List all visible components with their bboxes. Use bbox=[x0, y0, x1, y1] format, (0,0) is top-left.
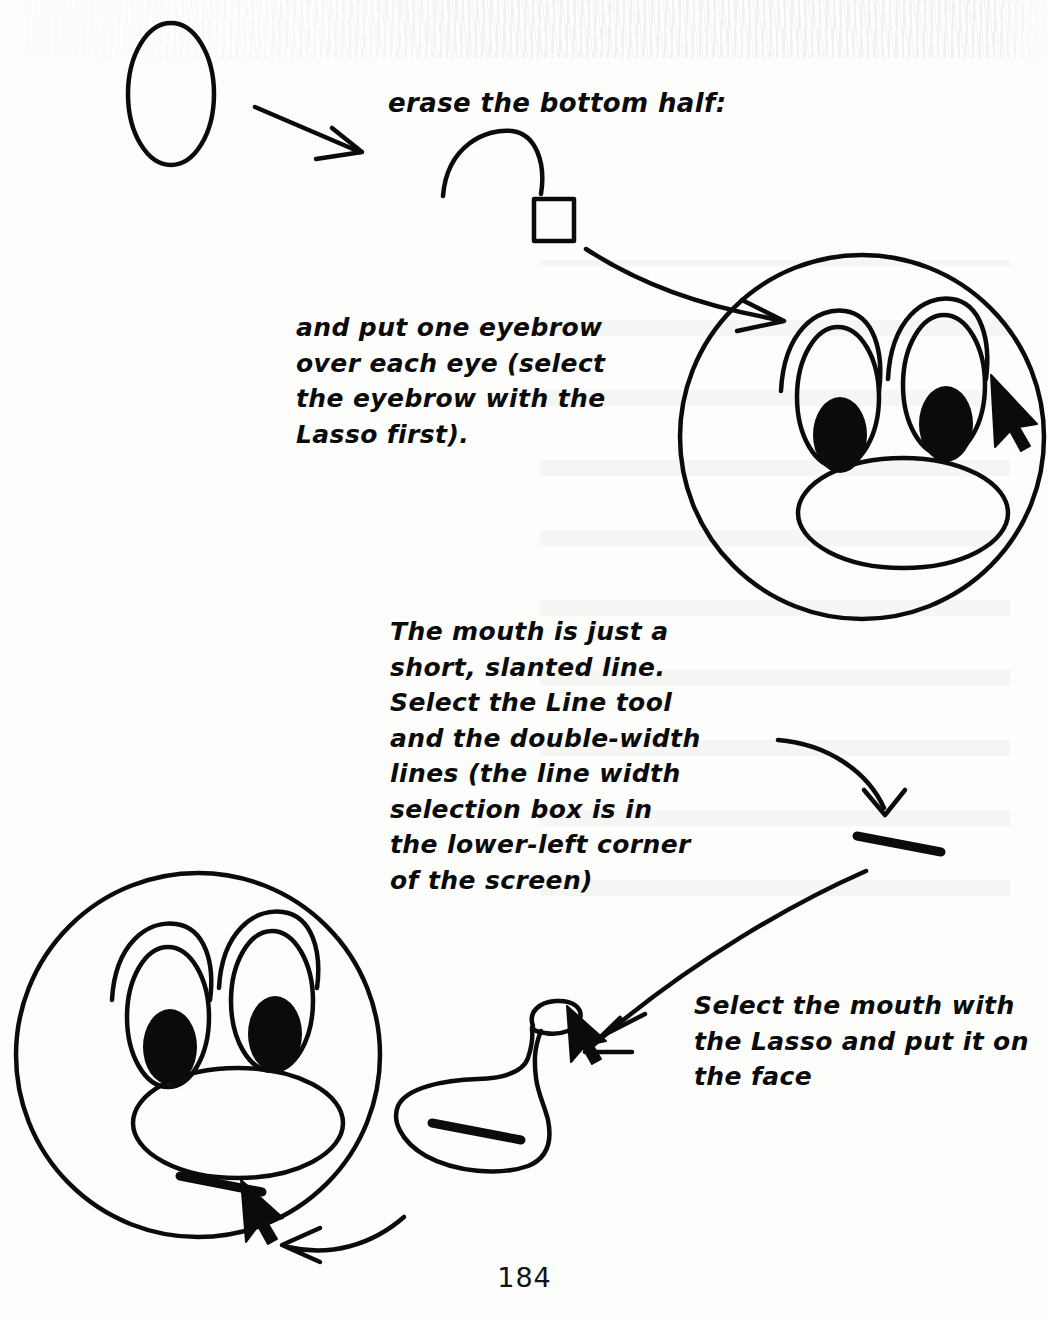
face-top bbox=[680, 255, 1044, 619]
face-top-left-pupil bbox=[813, 397, 867, 473]
face-top-left-eyebrow bbox=[781, 311, 880, 391]
eyebrow-instruction-text: and put one eyebrow over each eye (selec… bbox=[296, 310, 606, 452]
face-top-snout bbox=[798, 458, 1008, 568]
face-bottom bbox=[16, 873, 380, 1237]
arrow-lasso-to-face bbox=[282, 1217, 404, 1262]
arrow-ellipse-to-erase bbox=[255, 107, 362, 159]
eyebrow-arc bbox=[443, 131, 542, 196]
face-bottom-right-pupil bbox=[248, 996, 302, 1072]
mouth-line bbox=[857, 836, 941, 852]
face-top-right-eye bbox=[903, 315, 985, 455]
page-number: 184 bbox=[0, 1262, 1049, 1293]
face-top-outline bbox=[680, 255, 1044, 619]
cursor-lasso-icon bbox=[567, 1006, 645, 1064]
face-bottom-snout bbox=[133, 1068, 343, 1178]
arrow-square-to-face bbox=[586, 249, 784, 331]
arrow-text-to-mouthline bbox=[778, 740, 905, 815]
face-top-left-eye bbox=[797, 327, 879, 467]
tutorial-page: erase the bottom half: and put one eyebr… bbox=[0, 0, 1049, 1318]
lasso-mouth-line bbox=[432, 1123, 521, 1140]
cursor-mouth-icon bbox=[241, 1180, 283, 1244]
face-top-right-eyebrow bbox=[888, 299, 987, 379]
lasso-outline bbox=[396, 1029, 549, 1171]
face-top-right-pupil bbox=[919, 386, 973, 462]
erase-instruction-text: erase the bottom half: bbox=[388, 86, 727, 121]
face-bottom-right-eye bbox=[231, 931, 313, 1071]
mouth-instruction-text: The mouth is just a short, slanted line.… bbox=[390, 614, 701, 898]
lasso-blob bbox=[396, 1001, 580, 1172]
face-bottom-mouth-line bbox=[180, 1176, 262, 1192]
cursor-eyebrow-icon bbox=[991, 375, 1037, 451]
face-bottom-outline bbox=[16, 873, 380, 1237]
scan-bleed-through-top bbox=[0, 0, 1049, 58]
face-bottom-left-pupil bbox=[143, 1009, 197, 1085]
face-bottom-left-eye bbox=[127, 947, 209, 1087]
face-bottom-left-eyebrow bbox=[112, 924, 211, 1000]
ellipse-shape bbox=[128, 23, 214, 165]
selection-square bbox=[534, 199, 574, 241]
lasso-instruction-text: Select the mouth with the Lasso and put … bbox=[694, 988, 1029, 1095]
lasso-knot bbox=[532, 1001, 581, 1034]
face-bottom-right-eyebrow bbox=[219, 912, 318, 988]
